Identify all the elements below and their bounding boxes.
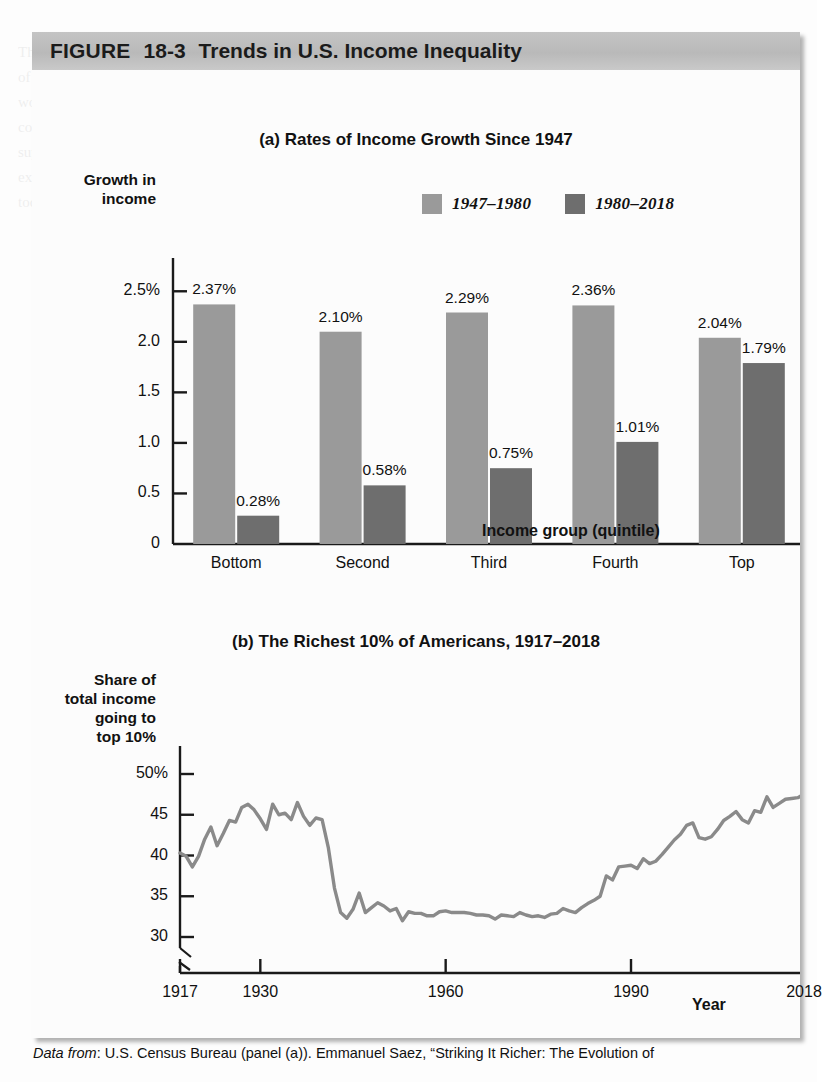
figure-title: Trends in U.S. Income Inequality xyxy=(199,39,522,63)
caption-text: : U.S. Census Bureau (panel (a)). Emmanu… xyxy=(97,1045,654,1061)
panel-b-x-tick-2018: 2018 xyxy=(754,983,826,1001)
panel-b-y-tick-50%: 50% xyxy=(72,764,168,782)
panel-a-value-fourth-1: 1.01% xyxy=(615,418,659,436)
panel-a-y-tick-0: 0 xyxy=(72,534,160,552)
figure-number: 18-3 xyxy=(144,39,186,63)
panel-b-y-tick-35: 35 xyxy=(72,886,168,904)
panel-a-value-bottom-0: 2.37% xyxy=(192,280,236,298)
panel-a-value-top-1: 1.79% xyxy=(742,339,786,357)
panel-a-value-third-0: 2.29% xyxy=(445,289,489,307)
panel-a-value-fourth-0: 2.36% xyxy=(571,281,615,299)
panel-b-x-tick-1930: 1930 xyxy=(210,983,310,1001)
figure-body: (a) Rates of Income Growth Since 1947 Gr… xyxy=(32,70,800,1038)
figure-header: FIGURE 18-3 Trends in U.S. Income Inequa… xyxy=(32,32,800,70)
figure-caption: Data from: U.S. Census Bureau (panel (a)… xyxy=(33,1045,795,1061)
panel-a-x-axis-title: Income group (quintile) xyxy=(482,522,660,540)
panel-b-y-tick-40: 40 xyxy=(72,846,168,864)
panel-b-x-tick-1990: 1990 xyxy=(581,983,681,1001)
figure-label: FIGURE xyxy=(50,39,131,63)
panel-b-line-chart: (b) The Richest 10% of Americans, 1917–2… xyxy=(32,570,800,1038)
panel-a-value-top-0: 2.04% xyxy=(698,314,742,332)
panel-a-bar-chart: (a) Rates of Income Growth Since 1947 Gr… xyxy=(32,70,800,570)
panel-b-y-tick-45: 45 xyxy=(72,805,168,823)
panel-a-y-tick-1.5: 1.5 xyxy=(72,382,160,400)
figure-box: FIGURE 18-3 Trends in U.S. Income Inequa… xyxy=(32,32,800,1038)
panel-b-x-tick-1960: 1960 xyxy=(396,983,496,1001)
panel-b-x-axis-title: Year xyxy=(692,996,726,1014)
panel-a-y-tick-0.5: 0.5 xyxy=(72,483,160,501)
panel-a-y-tick-2.0: 2.0 xyxy=(72,332,160,350)
caption-prefix: Data from xyxy=(33,1045,97,1061)
panel-a-y-tick-1.0: 1.0 xyxy=(72,433,160,451)
panel-a-y-tick-2.5%: 2.5% xyxy=(72,281,160,299)
panel-a-value-third-1: 0.75% xyxy=(489,444,533,462)
panel-a-value-second-1: 0.58% xyxy=(363,461,407,479)
panel-a-value-second-0: 2.10% xyxy=(319,308,363,326)
panel-b-y-tick-30: 30 xyxy=(72,927,168,945)
panel-a-value-bottom-1: 0.28% xyxy=(236,492,280,510)
